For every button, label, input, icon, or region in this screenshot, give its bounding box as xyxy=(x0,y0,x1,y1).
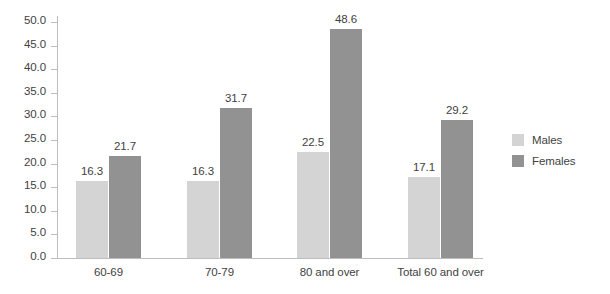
bar-value-label: 29.2 xyxy=(435,104,479,116)
bar-value-label: 17.1 xyxy=(402,161,446,173)
bar-males xyxy=(76,181,108,258)
y-tick-label: 40.0 xyxy=(0,61,46,73)
y-tick-label: 30.0 xyxy=(0,108,46,120)
y-tick-label: 0.0 xyxy=(0,250,46,262)
bar-value-label: 22.5 xyxy=(291,136,335,148)
y-tick-label: 10.0 xyxy=(0,203,46,215)
category-label: 70-79 xyxy=(157,266,282,278)
bar-females xyxy=(330,29,362,258)
y-tick-label: 50.0 xyxy=(0,14,46,26)
y-tick-label: 35.0 xyxy=(0,85,46,97)
chart-legend: Males Females xyxy=(512,129,604,171)
legend-item-females[interactable]: Females xyxy=(512,150,604,171)
y-tick-label: 15.0 xyxy=(0,179,46,191)
y-tick-label: 25.0 xyxy=(0,132,46,144)
bar-value-label: 31.7 xyxy=(214,92,258,104)
plot-area: 16.321.716.331.722.548.617.129.2 xyxy=(57,14,483,259)
legend-swatch-males-icon xyxy=(512,134,524,146)
y-tick-label: 20.0 xyxy=(0,156,46,168)
bar-chart: 50.045.040.035.030.025.020.015.010.05.00… xyxy=(0,0,610,294)
y-tick-label: 5.0 xyxy=(0,226,46,238)
y-tick-label: 45.0 xyxy=(0,38,46,50)
legend-label-males: Males xyxy=(532,134,562,146)
bar-males xyxy=(297,152,329,258)
bar-value-label: 21.7 xyxy=(103,140,147,152)
bar-females xyxy=(109,156,141,258)
bar-males xyxy=(187,181,219,258)
legend-item-males[interactable]: Males xyxy=(512,129,604,150)
legend-label-females: Females xyxy=(532,155,575,167)
bar-males xyxy=(408,177,440,258)
category-label: 60-69 xyxy=(46,266,171,278)
legend-swatch-females-icon xyxy=(512,155,524,167)
bar-females xyxy=(441,120,473,258)
category-label: 80 and over xyxy=(267,266,392,278)
bar-value-label: 16.3 xyxy=(70,165,114,177)
bar-females xyxy=(220,108,252,258)
category-label: Total 60 and over xyxy=(378,266,503,278)
bar-value-label: 48.6 xyxy=(324,13,368,25)
bar-value-label: 16.3 xyxy=(181,165,225,177)
